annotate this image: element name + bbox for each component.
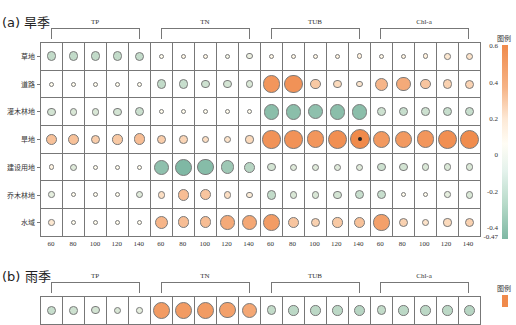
correlation-bubble (175, 302, 192, 319)
bubble-cell (437, 297, 459, 325)
bubble-cell (195, 297, 217, 325)
group-bracket-chla-b (380, 282, 469, 293)
bubble-cell (63, 297, 85, 325)
correlation-bubble (310, 305, 320, 315)
group-bracket-tub-b (271, 282, 360, 293)
bubble-cell (173, 297, 195, 325)
group-bracket-tp-b (51, 282, 140, 293)
correlation-bubble (197, 302, 214, 319)
group-label-chla-b: Chl-a (416, 272, 432, 280)
bubble-cell (85, 297, 107, 325)
bubble-cell (283, 297, 305, 325)
correlation-bubble (47, 306, 56, 315)
group-label-tub-b: TUB (308, 272, 322, 280)
correlation-bubble (136, 307, 143, 314)
correlation-bubble (377, 305, 387, 315)
bubble-cell (371, 297, 393, 325)
bubble-cell (41, 297, 63, 325)
correlation-bubble (442, 305, 452, 315)
b-row (41, 297, 481, 325)
bubble-cell (327, 297, 349, 325)
bubble-cell (305, 297, 327, 325)
correlation-bubble (267, 305, 277, 315)
colorbar-b (502, 295, 508, 307)
correlation-bubble (69, 306, 78, 315)
correlation-bubble (354, 305, 365, 316)
correlation-bubble (332, 305, 342, 315)
bubble-cell (459, 297, 481, 325)
correlation-bubble (288, 305, 298, 315)
correlation-bubble (114, 307, 122, 315)
group-label-tp-b: TP (91, 272, 99, 280)
bubble-cell (217, 297, 239, 325)
correlation-bubble (398, 305, 408, 315)
correlation-bubble (242, 303, 257, 318)
bubble-cell (107, 297, 129, 325)
bubble-cell (349, 297, 371, 325)
group-bracket-tn-b (161, 282, 250, 293)
correlation-bubble (420, 305, 430, 315)
panel-b-title: (b) 雨季 (2, 266, 51, 285)
bubble-cell (151, 297, 173, 325)
correlation-bubble (91, 306, 99, 314)
legend-title-b: 图例 (497, 283, 511, 293)
group-label-tn-b: TN (200, 272, 209, 280)
bubble-cell (239, 297, 261, 325)
correlation-bubble (153, 302, 170, 319)
bubble-grid-b (40, 296, 481, 325)
bubble-cell (129, 297, 151, 325)
correlation-bubble (464, 305, 475, 316)
bubble-cell (261, 297, 283, 325)
correlation-bubble (219, 302, 235, 318)
bubble-cell (393, 297, 415, 325)
bubble-cell (415, 297, 437, 325)
